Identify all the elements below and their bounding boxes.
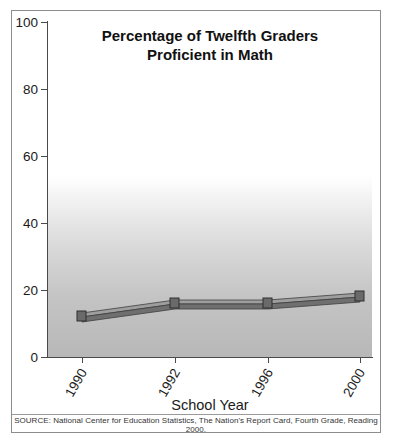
x-tick-mark-2000 [360, 358, 361, 363]
chart-title-line-2: Proficient in Math [48, 45, 372, 64]
y-tick-mark-20 [41, 290, 48, 291]
y-axis-line [47, 21, 48, 358]
source-note: SOURCE: National Center for Education St… [12, 416, 380, 434]
chart-figure: 100 80 60 40 20 0 1990 1992 1996 2000 Pe… [0, 0, 393, 443]
y-tick-label-80: 80 [0, 82, 38, 97]
y-tick-mark-60 [41, 156, 48, 157]
x-axis-line [47, 357, 373, 358]
chart-title-line-1: Percentage of Twelfth Graders [48, 26, 372, 45]
x-tick-mark-1992 [175, 358, 176, 363]
plot-area [48, 22, 372, 357]
source-divider [12, 414, 380, 415]
y-tick-label-40: 40 [0, 216, 38, 231]
y-tick-mark-0 [41, 357, 48, 358]
y-tick-label-20: 20 [0, 283, 38, 298]
y-tick-label-0: 0 [0, 350, 38, 365]
y-tick-label-100: 100 [0, 15, 38, 30]
y-tick-mark-40 [41, 223, 48, 224]
x-tick-mark-1996 [268, 358, 269, 363]
y-tick-mark-80 [41, 89, 48, 90]
x-axis-title: School Year [48, 397, 372, 413]
x-tick-mark-1990 [82, 358, 83, 363]
y-tick-mark-100 [41, 22, 48, 23]
y-tick-label-60: 60 [0, 149, 38, 164]
chart-title: Percentage of Twelfth Graders Proficient… [48, 26, 372, 64]
